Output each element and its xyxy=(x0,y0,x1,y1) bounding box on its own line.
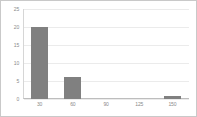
bar[interactable] xyxy=(164,96,181,99)
bar-slot xyxy=(56,9,89,99)
x-axis-tick-label: 125 xyxy=(123,101,156,113)
bar-series xyxy=(23,9,189,99)
y-axis-tick-labels: 25 20 15 10 5 0 xyxy=(1,9,21,99)
y-axis-tick-label: 15 xyxy=(14,42,19,48)
y-axis-tick-label: 20 xyxy=(14,24,19,30)
y-axis-tick-label: 0 xyxy=(16,96,19,102)
plot-wrapper xyxy=(23,9,189,99)
bar-slot xyxy=(23,9,56,99)
chart-frame: 25 20 15 10 5 0 30 60 90 125 150 xyxy=(0,0,197,117)
x-axis-tick-label: 90 xyxy=(89,101,122,113)
x-axis-tick-labels: 30 60 90 125 150 xyxy=(23,101,189,113)
bar[interactable] xyxy=(64,77,81,99)
gridline xyxy=(24,99,189,100)
x-axis-tick-label: 30 xyxy=(23,101,56,113)
x-axis-tick-label: 60 xyxy=(56,101,89,113)
bar[interactable] xyxy=(31,27,48,99)
bar-slot xyxy=(123,9,156,99)
bar-slot xyxy=(156,9,189,99)
y-axis-tick-label: 10 xyxy=(14,60,19,66)
x-axis-tick-label: 150 xyxy=(156,101,189,113)
bar-slot xyxy=(89,9,122,99)
y-axis-tick-label: 25 xyxy=(14,6,19,12)
y-axis-tick-label: 5 xyxy=(16,78,19,84)
